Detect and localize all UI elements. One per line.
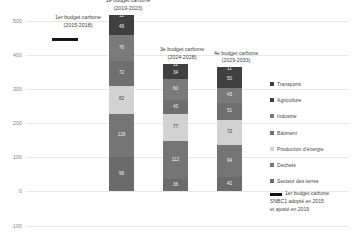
legend-swatch-icon	[270, 114, 274, 118]
y-tick-200: 200	[0, 120, 22, 126]
legend-swatch-icon	[270, 82, 274, 86]
legend-item-b-timent[interactable]: Bâtiment	[270, 125, 355, 141]
bar-segment-d-chets: 128	[109, 114, 134, 158]
first-budget-line-icon	[270, 193, 282, 196]
legend-item-industrie[interactable]: Industrie	[270, 108, 355, 124]
y-tick-100: 100	[0, 154, 22, 160]
legend-item-label: Production d'énergie	[277, 146, 324, 152]
y-tick-400: 400	[0, 52, 22, 58]
bar-segment-b-timent: 51	[217, 103, 242, 120]
legend-note-row-1: 1er budget carbone	[270, 190, 355, 198]
gridline--100	[26, 226, 349, 227]
legend-swatch-icon	[270, 179, 274, 183]
bar-segment-agriculture: 34	[163, 68, 188, 80]
legend-item-label: Industrie	[277, 113, 297, 119]
y-tick-500: 500	[0, 18, 22, 24]
bar-segment-production-d-nergie: 77	[163, 114, 188, 140]
legend-item-secteur-des-terres[interactable]: Secteur des terres	[270, 173, 355, 189]
bar-title-line2: (2019-2023)	[114, 5, 143, 11]
bar-segment-industrie: 60	[163, 79, 188, 100]
legend-swatch-icon	[270, 163, 274, 167]
bar-segment-secteur-des-terres: 36	[163, 179, 188, 191]
y-tick-300: 300	[0, 86, 22, 92]
bar-segment-agriculture: 50	[217, 71, 242, 88]
bar-title-budget-4: 4e budget carbone(2029-2033)	[204, 50, 268, 65]
y-tick-0: 0	[0, 188, 22, 194]
bar-segment-production-d-nergie: 82	[109, 86, 134, 114]
legend-item-label: Secteur des terres	[277, 178, 319, 184]
legend-item-production-d-nergie[interactable]: Production d'énergie	[270, 141, 355, 157]
bar-title-line2: (2015-2018)	[64, 22, 93, 28]
legend-items: TransportsAgricultureIndustrieBâtimentPr…	[270, 76, 355, 189]
y-tick--100: -100	[0, 223, 22, 229]
bar-segment-production-d-nergie: 72	[217, 120, 242, 145]
legend-item-transports[interactable]: Transports	[270, 76, 355, 92]
bar-title-line1: 4e budget carbone	[214, 50, 258, 56]
legend-note-line2: SNBC1 adopté en 2015	[270, 198, 355, 206]
bar-budget-2: 114976728212899	[109, 15, 134, 192]
legend-item-d-chets[interactable]: Déchets	[270, 157, 355, 173]
carbon-budget-stacked-bar-chart: 5004003002001000-100 1er budget carbone …	[0, 0, 355, 247]
bar-segment-secteur-des-terres: 99	[109, 157, 134, 191]
legend-item-agriculture[interactable]: Agriculture	[270, 92, 355, 108]
legend-note: 1er budget carbone SNBC1 adopté en 2015 …	[270, 190, 355, 214]
bar-segment-industrie: 76	[109, 35, 134, 61]
bar-title-line1: 3e budget carbone	[160, 46, 204, 52]
bar-segment-industrie: 43	[217, 88, 242, 103]
bar-title-line2: (2029-2033)	[222, 57, 251, 63]
legend-note-line3: et ajusté en 2019	[270, 206, 355, 214]
legend-swatch-icon	[270, 147, 274, 151]
bar-segment-d-chets: 94	[217, 145, 242, 177]
bar-segment-secteur-des-terres: 42	[217, 177, 242, 191]
bar-title-line1: 1er budget carbone	[55, 14, 101, 20]
bar-title-line2: (2024-2028)	[168, 54, 197, 60]
bar-title-line1: 2e budget carbone	[106, 0, 150, 3]
legend-item-label: Déchets	[277, 162, 296, 168]
legend-note-line1: 1er budget carbone	[285, 190, 329, 198]
legend-swatch-icon	[270, 131, 274, 135]
bar-segment-agriculture: 49	[109, 18, 134, 35]
bar-budget-4: 11504351729442	[217, 67, 242, 191]
bar-segment-b-timent: 43	[163, 100, 188, 115]
first-budget-marker	[52, 38, 78, 41]
bar-segment-b-timent: 72	[109, 61, 134, 86]
legend-swatch-icon	[270, 98, 274, 102]
bar-segment-d-chets: 112	[163, 141, 188, 179]
bar-title-budget-2: 2e budget carbone(2019-2023)	[96, 0, 160, 13]
bar-budget-3: 123460437711236	[163, 64, 188, 192]
legend-item-label: Agriculture	[277, 97, 301, 103]
legend: TransportsAgricultureIndustrieBâtimentPr…	[270, 76, 355, 214]
legend-item-label: Transports	[277, 81, 301, 87]
legend-item-label: Bâtiment	[277, 130, 297, 136]
